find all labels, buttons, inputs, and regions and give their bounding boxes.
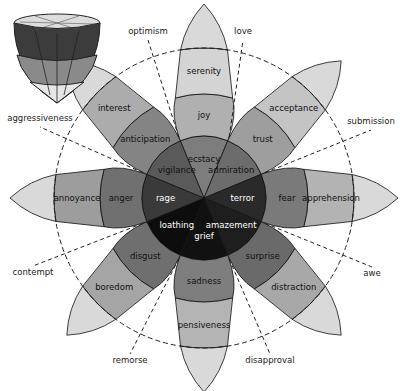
- emotion-label-fear: fear: [279, 193, 296, 203]
- emotion-label-admiration: admiration: [208, 165, 254, 175]
- emotion-label-sadness: sadness: [187, 276, 222, 286]
- emotion-label-boredom: boredom: [95, 282, 133, 292]
- emotion-label-disgust: disgust: [130, 251, 161, 261]
- emotion-label-serenity: serenity: [187, 66, 221, 76]
- dyad-label-remorse: remorse: [112, 355, 147, 365]
- emotion-label-joy: joy: [197, 110, 211, 120]
- emotion-label-acceptance: acceptance: [269, 103, 318, 113]
- emotion-label-rage: rage: [156, 193, 175, 203]
- emotion-label-anticipation: anticipation: [120, 134, 170, 144]
- petal-tip: [181, 346, 228, 391]
- dyad-label-contempt: contempt: [13, 267, 54, 277]
- emotion-wheel: ecstacyjoyserenityadmirationtrustaccepta…: [0, 0, 409, 391]
- dyad-label-optimism: optimism: [128, 26, 168, 36]
- emotion-label-grief: grief: [194, 231, 214, 241]
- dyad-label-awe: awe: [363, 268, 380, 278]
- emotion-label-vigilance: vigilance: [158, 165, 196, 175]
- emotion-label-apprehension: apprehension: [302, 193, 360, 203]
- dyad-label-love: love: [234, 26, 252, 36]
- dyad-label-submission: submission: [347, 116, 395, 126]
- dyad-label-aggressiveness: aggressiveness: [7, 113, 73, 123]
- emotion-label-loathing: loathing: [159, 220, 194, 230]
- emotion-label-terror: terror: [230, 193, 254, 203]
- emotion-label-anger: anger: [109, 193, 134, 203]
- emotion-label-distraction: distraction: [271, 282, 316, 292]
- emotion-label-interest: interest: [98, 103, 131, 113]
- emotion-label-ecstacy: ecstacy: [188, 154, 221, 164]
- emotion-label-pensiveness: pensiveness: [178, 320, 231, 330]
- emotion-label-trust: trust: [253, 134, 274, 144]
- petal-tip: [10, 175, 56, 222]
- emotion-label-annoyance: annoyance: [54, 193, 101, 203]
- dyad-label-disapproval: disapproval: [245, 355, 294, 365]
- petal-tip: [181, 4, 228, 50]
- emotion-label-amazement: amazement: [206, 220, 257, 230]
- emotion-label-surprise: surprise: [246, 251, 280, 261]
